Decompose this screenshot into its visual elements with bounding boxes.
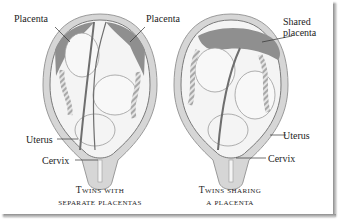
caption-shared-line1: Twins sharing <box>180 184 280 196</box>
label-uterus-left: Uterus <box>26 134 53 145</box>
caption-separate: Twins with separate placentas <box>40 184 160 208</box>
label-placenta-left: Placenta <box>14 13 48 24</box>
label-placenta-right: Placenta <box>146 13 180 24</box>
caption-separate-line2: separate placentas <box>40 196 160 208</box>
caption-shared-line2: a placenta <box>180 196 280 208</box>
label-uterus-right: Uterus <box>283 130 310 141</box>
label-shared-line2: placenta <box>283 27 316 38</box>
label-cervix-left: Cervix <box>42 155 69 166</box>
label-shared-line1: Shared <box>283 16 311 27</box>
caption-separate-line1: Twins with <box>40 184 160 196</box>
caption-shared: Twins sharing a placenta <box>180 184 280 208</box>
label-cervix-right: Cervix <box>268 153 295 164</box>
